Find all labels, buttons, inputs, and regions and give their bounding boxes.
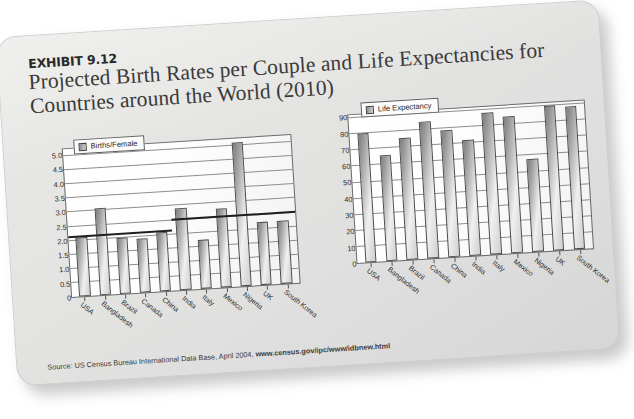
y-axis-tick-label: 4.5 [35,165,64,176]
x-axis-tick: Bangladesh [94,295,117,340]
plot-area [347,99,594,264]
x-axis-tick: Canada [135,293,158,338]
x-axis-tick: Brazil [402,260,426,305]
bar [462,140,481,256]
exhibit-card: EXHIBIT 9.12 Projected Birth Rates per C… [0,0,620,387]
bar-series [63,135,300,297]
bar [277,220,292,284]
plot-area [62,134,301,298]
y-axis-tick-label: 0.5 [42,279,71,290]
y-axis-tick-label: 4.0 [36,180,65,191]
x-axis-tick: Mexico [216,288,239,333]
x-axis-tick: USA [360,263,384,308]
x-axis-tick: Nigeria [528,252,552,297]
y-axis-tick-label: 60 [322,162,351,173]
y-axis-tick-label: 70 [321,146,350,157]
x-axis-tick: Italy [196,289,219,334]
x-axis-tick-label: South Korea [282,287,319,319]
x-axis-tick: China [444,257,468,302]
legend-label: Life Expectancy [378,101,432,113]
x-axis-tick: Italy [486,255,510,300]
x-axis-tick: China [155,292,178,337]
bar [379,155,397,262]
y-axis-tick-label: 20 [326,227,355,238]
y-axis-tick-label: 0 [328,260,357,271]
bar [257,221,272,285]
x-axis-tick: UK [549,251,573,296]
x-axis-tick-label: UK [554,254,567,267]
x-axis-tick-label: USA [79,300,96,316]
y-axis-tick-label: 80 [320,129,349,140]
bar [94,207,111,295]
legend-swatch-icon [366,105,374,113]
bar [565,106,586,250]
y-axis-tick-label: 2.0 [39,237,68,248]
exhibit-page: EXHIBIT 9.12 Projected Birth Rates per C… [0,0,634,419]
x-axis-tick-label: UK [262,289,275,302]
x-axis-tick: USA [74,297,97,342]
x-axis-tick-label: India [470,260,488,277]
charts-container: 00.51.01.52.02.53.03.54.04.55.0USABangla… [0,0,619,385]
x-axis-tick-label: USA [365,266,382,282]
x-axis-tick: India [176,290,199,335]
y-axis-tick-label: 40 [324,195,353,206]
chart-births-per-female: 00.51.01.52.02.53.03.54.04.55.0USABangla… [32,132,306,344]
y-axis-tick-label: 3.0 [38,208,67,219]
x-axis-tick: Canada [423,259,447,304]
legend-swatch-icon [78,142,86,150]
bar [175,208,191,290]
bar [526,158,544,252]
bar [76,237,91,297]
x-axis-tick-label: Italy [491,258,507,273]
x-axis-tick-label: South Korea [575,253,612,285]
y-axis-tick-label: 1.5 [40,251,69,262]
y-axis-tick-label: 1.0 [41,265,70,276]
y-axis-tick-label: 3.5 [37,194,66,205]
bar [137,239,152,293]
x-axis-tick: Brazil [115,294,138,339]
bar [399,137,418,260]
y-axis-tick-label: 2.5 [38,222,67,233]
y-axis-tick-label: 90 [319,113,348,124]
bar [197,239,211,289]
bar [116,237,131,294]
x-axis-tick: India [465,256,489,301]
y-axis-tick-label: 0 [43,294,72,305]
x-axis-tick: Nigeria [237,286,260,331]
bar [216,208,232,287]
x-axis-tick: South Korea [277,284,300,329]
y-axis-tick-label: 30 [325,211,354,222]
x-axis-tick: UK [257,285,280,330]
y-axis-tick-label: 5.0 [34,151,63,162]
bar [156,232,171,292]
y-axis-tick-label: 10 [327,243,356,254]
chart-life-expectancy: 0102030405060708090USABangladeshBrazilCa… [317,97,599,310]
x-axis-tick: South Korea [570,249,594,294]
x-axis-tick: Mexico [507,253,531,298]
bar-series [348,101,593,264]
x-axis-tick: Bangladesh [381,261,405,306]
legend-label: Births/Female [90,139,137,151]
y-axis-tick-label: 50 [323,178,352,189]
x-axis-tick-label: Italy [201,293,217,308]
